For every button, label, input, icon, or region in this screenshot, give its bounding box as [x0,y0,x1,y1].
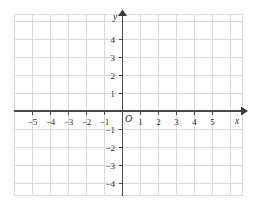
y-tick-label: 2 [111,71,116,81]
coordinate-plane-figure: −5 −4 −3 −2 −1 1 2 3 4 5 4 3 2 1 −1 −2 −… [0,0,254,210]
x-tick-label: −2 [82,117,92,127]
y-tick-label: −2 [105,143,115,153]
origin-label: O [125,113,132,124]
x-tick-label: 1 [138,117,143,127]
x-tick-label: −5 [28,117,38,127]
x-tick-label: 2 [156,117,161,127]
x-tick-label: 4 [192,117,197,127]
x-tick-label: 3 [174,117,179,127]
y-tick-label: −3 [105,161,115,171]
plot-background [0,0,254,210]
y-tick-label: −1 [105,125,115,135]
y-axis-label: y [112,12,118,22]
x-tick-label: −3 [64,117,74,127]
x-axis-label: x [234,116,240,126]
y-tick-label: 4 [111,35,116,45]
y-tick-label: −4 [105,179,115,189]
y-tick-label: 3 [111,53,116,63]
coordinate-plane-svg: −5 −4 −3 −2 −1 1 2 3 4 5 4 3 2 1 −1 −2 −… [0,0,254,210]
y-tick-label: 1 [111,89,116,99]
x-tick-label: −4 [46,117,56,127]
x-tick-label: 5 [210,117,215,127]
